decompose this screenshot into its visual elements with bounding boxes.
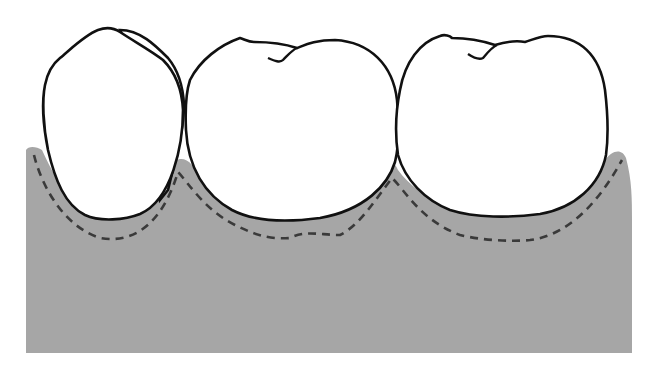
tooth-3: [396, 35, 607, 216]
dental-diagram: [0, 0, 650, 370]
tooth-2: [186, 38, 399, 220]
